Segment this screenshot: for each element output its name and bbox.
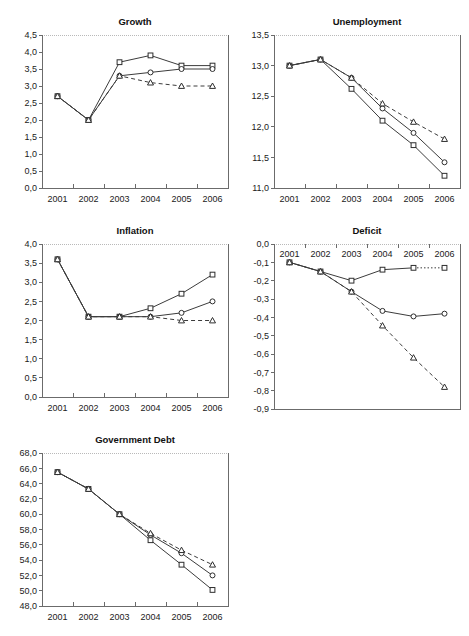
x-tick-label: 2002: [78, 403, 98, 413]
series-1-square: [287, 57, 447, 178]
data-point-square: [411, 143, 416, 148]
x-tick-label: 2002: [310, 194, 330, 204]
chart-title: Deficit: [352, 225, 382, 236]
series-3-triangle: [55, 73, 216, 123]
data-point-square: [148, 53, 153, 58]
x-tick-label: 2003: [109, 612, 129, 622]
x-tick-label: 2003: [109, 403, 129, 413]
y-tick-label: -0,3: [253, 294, 269, 304]
series-2-circle: [287, 57, 447, 165]
x-tick-label: 2005: [403, 194, 423, 204]
x-tick-label: 2004: [372, 194, 392, 204]
y-tick-label: -0,2: [253, 276, 269, 286]
y-tick-label: 66,0: [19, 464, 37, 474]
data-point-triangle: [380, 101, 386, 106]
y-tick-label: 2,0: [24, 316, 37, 326]
series-3-triangle: [287, 259, 448, 389]
chart-panel-unemployment: Unemployment11,011,512,012,513,013,52001…: [240, 13, 468, 218]
chart-panel-growth: Growth0,00,51,01,52,02,53,03,54,04,52001…: [8, 13, 236, 218]
y-tick-label: -0,7: [253, 368, 269, 378]
x-tick-label: 2006: [202, 403, 222, 413]
series-line: [290, 59, 445, 162]
x-tick-label: 2004: [140, 194, 160, 204]
y-tick-label: 2,0: [24, 115, 37, 125]
data-point-circle: [411, 314, 416, 319]
series-line: [58, 472, 213, 590]
series-line: [58, 76, 213, 120]
x-tick-label: 2003: [341, 249, 361, 259]
y-tick-label: -0,9: [253, 404, 269, 414]
chart-title: Inflation: [117, 225, 154, 236]
y-tick-label: 11,5: [252, 153, 269, 163]
y-tick-label: 0,0: [24, 183, 37, 193]
y-tick-label: 1,5: [24, 132, 37, 142]
y-tick-label: -0,1: [253, 258, 269, 268]
chart-unemployment: Unemployment11,011,512,012,513,013,52001…: [240, 13, 468, 218]
data-point-circle: [442, 160, 447, 165]
series-2-circle: [55, 67, 215, 123]
y-tick-label: -0,6: [253, 349, 269, 359]
x-tick-label: 2005: [403, 249, 423, 259]
y-tick-label: 2,5: [24, 297, 37, 307]
chart-panel-inflation: Inflation0,00,51,01,52,02,53,03,54,02001…: [8, 222, 236, 427]
data-point-square: [210, 272, 215, 277]
x-tick-label: 2001: [47, 403, 67, 413]
data-point-square: [210, 588, 215, 593]
x-tick-label: 2006: [202, 612, 222, 622]
series-line: [58, 55, 213, 120]
x-tick-label: 2005: [171, 403, 191, 413]
data-point-circle: [179, 67, 184, 72]
x-tick-label: 2005: [171, 194, 191, 204]
x-tick-label: 2006: [434, 249, 454, 259]
x-tick-label: 2001: [279, 249, 299, 259]
data-point-circle: [179, 310, 184, 315]
data-point-triangle: [411, 119, 417, 124]
chart-title: Growth: [118, 16, 151, 27]
x-tick-label: 2006: [202, 194, 222, 204]
y-tick-label: -0,5: [253, 331, 269, 341]
series-line: [290, 59, 445, 139]
x-tick-label: 2002: [78, 194, 98, 204]
y-tick-label: 0,5: [24, 373, 37, 383]
y-tick-label: 3,5: [24, 258, 37, 268]
data-point-circle: [210, 573, 215, 578]
y-tick-label: -0,8: [253, 386, 269, 396]
chart-title: Unemployment: [333, 16, 402, 27]
data-point-square: [411, 265, 416, 270]
x-tick-label: 2005: [171, 612, 191, 622]
y-tick-label: 60,0: [19, 509, 37, 519]
data-point-triangle: [210, 562, 216, 567]
data-point-square: [442, 173, 447, 178]
page-top-text-fragment: [0, 0, 469, 13]
x-tick-label: 2001: [279, 194, 299, 204]
x-tick-label: 2003: [109, 194, 129, 204]
data-point-square: [380, 118, 385, 123]
series-3-triangle: [55, 469, 216, 567]
x-tick-label: 2001: [47, 612, 67, 622]
series-line: [58, 69, 213, 120]
y-tick-label: 4,5: [24, 30, 37, 40]
series-1-square: [55, 53, 215, 122]
y-tick-label: 12,5: [251, 91, 269, 101]
data-point-circle: [380, 308, 385, 313]
y-tick-label: 58,0: [19, 525, 37, 535]
data-point-circle: [210, 67, 215, 72]
data-point-circle: [442, 311, 447, 316]
y-tick-label: 54,0: [19, 555, 37, 565]
chart-debt: Government Debt48,050,052,054,056,058,06…: [8, 431, 236, 636]
y-tick-label: 11,0: [252, 183, 269, 193]
x-tick-label: 2003: [341, 194, 361, 204]
y-tick-label: 68,0: [19, 448, 37, 458]
series-line: [58, 259, 213, 316]
series-line: [290, 59, 445, 175]
x-tick-label: 2004: [140, 612, 160, 622]
data-point-triangle: [442, 136, 448, 141]
y-tick-label: 62,0: [19, 494, 37, 504]
chart-deficit: Deficit-0,9-0,8-0,7-0,6-0,5-0,4-0,3-0,2-…: [240, 222, 468, 427]
y-tick-label: 12,0: [251, 122, 269, 132]
y-tick-label: 56,0: [19, 540, 37, 550]
data-point-circle: [411, 130, 416, 135]
x-tick-label: 2002: [310, 249, 330, 259]
plot-frame: [274, 244, 460, 409]
data-point-circle: [210, 299, 215, 304]
